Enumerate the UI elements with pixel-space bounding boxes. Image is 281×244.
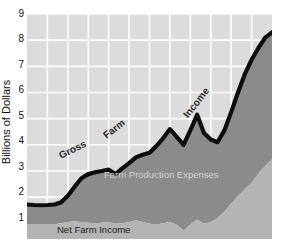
y-tick-4: 4 xyxy=(8,136,24,146)
chart-svg xyxy=(27,14,272,239)
clipped-header-artifact xyxy=(0,0,281,8)
plot-area xyxy=(27,14,272,239)
y-axis-tick-column: 9 8 7 6 5 4 3 2 1 xyxy=(6,0,24,244)
y-tick-8: 8 xyxy=(8,34,24,44)
y-tick-9: 9 xyxy=(8,9,24,19)
y-tick-6: 6 xyxy=(8,85,24,95)
y-tick-5: 5 xyxy=(8,111,24,121)
y-tick-7: 7 xyxy=(8,60,24,70)
y-tick-1: 1 xyxy=(8,213,24,223)
farm-income-chart: Billions of Dollars 9 8 7 6 5 4 3 2 1 Gr… xyxy=(0,0,281,244)
farm-production-expenses-label: Farm Production Expenses xyxy=(104,169,219,180)
y-tick-3: 3 xyxy=(8,162,24,172)
y-tick-2: 2 xyxy=(8,187,24,197)
net-farm-income-label: Net Farm Income xyxy=(57,224,130,235)
